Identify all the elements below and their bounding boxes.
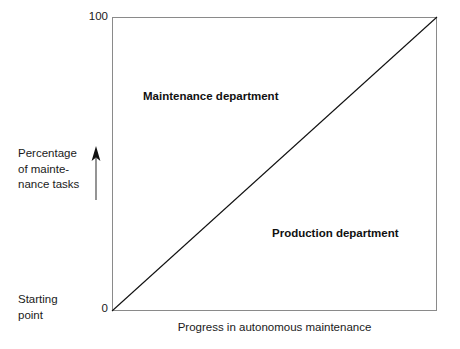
y-axis-tick-100: 100	[89, 10, 108, 22]
y-axis-tick-0: 0	[102, 302, 108, 314]
y-axis-title: Percentage of mainte- nance tasks	[18, 146, 88, 193]
series-line-transfer	[112, 17, 437, 311]
y-axis-title-line-3: nance tasks	[18, 177, 88, 193]
maintenance-department-label: Maintenance department	[143, 90, 278, 103]
autonomous-maintenance-chart: 100 0 Percentage of mainte- nance tasks …	[0, 0, 460, 349]
x-axis-title: Progress in autonomous maintenance	[112, 321, 437, 334]
starting-point-line-1: Starting	[18, 292, 90, 308]
arrow-up-icon	[88, 144, 104, 204]
y-axis-title-line-2: of mainte-	[18, 162, 88, 178]
diagonal-line	[112, 17, 437, 311]
production-department-label: Production department	[272, 227, 399, 240]
y-axis-title-line-1: Percentage	[18, 146, 88, 162]
starting-point-line-2: point	[18, 308, 90, 324]
starting-point-label: Starting point	[18, 292, 90, 323]
